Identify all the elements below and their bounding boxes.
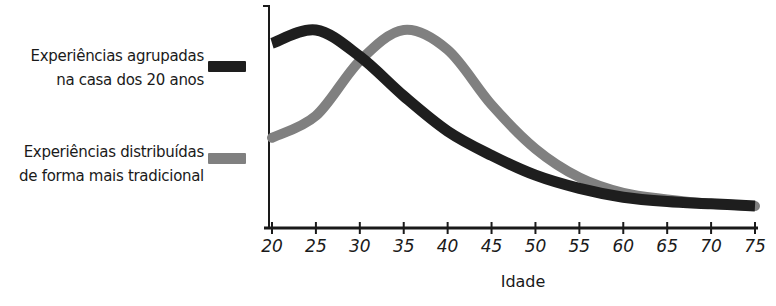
x-tick-label: 35 <box>384 236 424 256</box>
plot-area <box>0 0 776 306</box>
x-tick-label: 30 <box>340 236 380 256</box>
x-tick-label: 50 <box>515 236 555 256</box>
x-tick-label: 25 <box>296 236 336 256</box>
x-tick-label: 65 <box>647 236 687 256</box>
x-tick-label: 55 <box>559 236 599 256</box>
y-axis <box>263 6 269 228</box>
x-tick-label: 75 <box>735 236 775 256</box>
x-axis-label: Idade <box>493 272 553 291</box>
series-traditional-line <box>272 30 755 206</box>
x-tick-label: 40 <box>428 236 468 256</box>
x-tick-label: 45 <box>472 236 512 256</box>
x-tick-label: 70 <box>691 236 731 256</box>
series-clustered-line <box>272 30 755 206</box>
x-tick-label: 60 <box>603 236 643 256</box>
x-tick-label: 20 <box>252 236 292 256</box>
